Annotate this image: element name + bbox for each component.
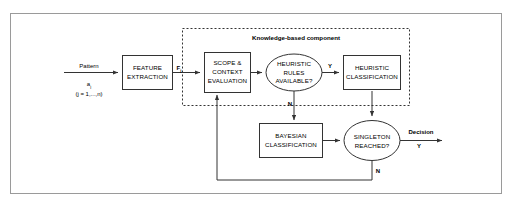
node-heuristic-rules-available: HEURISTIC RULES AVAILABLE? — [266, 54, 322, 91]
label-singleton-yes: Y — [417, 143, 421, 149]
node-scope-context-line3: EVALUATION — [208, 77, 247, 84]
node-singleton-reached-line1: SINGLETON — [354, 133, 391, 140]
node-heuristic-classification: HEURISTIC CLASSIFICATION — [344, 56, 401, 90]
label-pattern: Pattern — [79, 63, 98, 69]
node-heuristic-rules-line1: HEURISTIC — [277, 60, 312, 67]
svg-text:Fj: Fj — [177, 65, 182, 73]
label-pattern-symbol-sub: j — [89, 84, 91, 89]
label-pattern-symbol: aj — [87, 81, 91, 89]
node-feature-extraction-line2: EXTRACTION — [127, 73, 168, 80]
node-bayesian-classification: BAYESIAN CLASSIFICATION — [260, 124, 323, 158]
node-heuristic-rules-line2: RULES — [283, 69, 304, 76]
svg-text:aj: aj — [87, 81, 91, 89]
node-feature-extraction: FEATURE EXTRACTION — [123, 56, 173, 90]
node-bayesian-classification-line1: BAYESIAN — [275, 132, 306, 139]
label-pattern-range: (j = 1,...,n) — [75, 91, 102, 97]
node-bayesian-classification-line2: CLASSIFICATION — [265, 141, 317, 148]
node-singleton-reached-line2: REACHED? — [355, 142, 390, 149]
knowledge-based-component-title: Knowledge-based component — [252, 34, 340, 41]
label-singleton-no: N — [376, 168, 380, 174]
node-heuristic-rules-line3: AVAILABLE? — [276, 77, 313, 84]
node-heuristic-classification-line1: HEURISTIC — [355, 64, 390, 71]
node-scope-context-evaluation: SCOPE & CONTEXT EVALUATION — [205, 53, 251, 93]
node-scope-context-line1: SCOPE & — [213, 59, 242, 66]
node-heuristic-classification-line2: CLASSIFICATION — [346, 73, 398, 80]
label-rules-yes: Y — [328, 63, 332, 69]
node-singleton-reached: SINGLETON REACHED? — [344, 121, 400, 161]
node-scope-context-line2: CONTEXT — [212, 68, 242, 75]
label-feature-vector-sub: j — [179, 68, 181, 73]
label-feature-vector: Fj — [177, 65, 182, 73]
label-rules-no: N — [288, 101, 292, 107]
node-feature-extraction-line1: FEATURE — [133, 64, 162, 71]
label-decision: Decision — [408, 129, 433, 135]
flowchart-diagram: Knowledge-based component FEATURE EXTRAC… — [0, 0, 511, 206]
